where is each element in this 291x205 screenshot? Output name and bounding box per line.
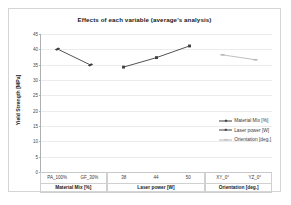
category-group-label: Orientation [deg.] bbox=[206, 183, 271, 193]
plot-area: 051015202530354045 bbox=[40, 34, 272, 172]
series-orientation-deg bbox=[220, 55, 257, 60]
category-tick-label: 44 bbox=[140, 175, 172, 180]
chart-figure: Effects of each variable (average's anal… bbox=[8, 8, 281, 192]
series-line bbox=[223, 55, 256, 60]
series-layer bbox=[41, 34, 272, 172]
y-axis-tick-label: 5 bbox=[35, 154, 38, 159]
chart-title: Effects of each variable (average's anal… bbox=[9, 16, 280, 23]
legend-entry[interactable]: Laser power [W] bbox=[219, 128, 269, 133]
y-axis-tick-label: 0 bbox=[35, 170, 38, 175]
category-group: PA_100%GF_30%Material Mix [%] bbox=[40, 172, 107, 193]
category-tick-label: 50 bbox=[172, 175, 204, 180]
legend-swatch-icon bbox=[219, 118, 232, 123]
data-point-marker bbox=[188, 45, 191, 48]
legend-entry[interactable]: Orientation [deg.] bbox=[219, 137, 271, 142]
data-point-marker bbox=[155, 56, 158, 59]
y-axis-tick-label: 15 bbox=[33, 124, 38, 129]
series-material-mix bbox=[55, 47, 93, 66]
series-line bbox=[58, 49, 91, 65]
category-tick-row: PA_100%GF_30% bbox=[41, 172, 106, 183]
y-axis-tick-label: 30 bbox=[33, 78, 38, 83]
category-tick-row: 384450 bbox=[108, 172, 205, 183]
category-group-label: Material Mix [%] bbox=[41, 183, 106, 193]
category-tick-label: 38 bbox=[108, 175, 140, 180]
y-axis-tick-label: 10 bbox=[33, 139, 38, 144]
legend-entry[interactable]: Material Mix [%] bbox=[219, 118, 268, 123]
legend-swatch-icon bbox=[219, 137, 232, 142]
y-axis-title: Yield Strength [MPa] bbox=[15, 75, 21, 126]
category-group-label: Laser power [W] bbox=[108, 183, 205, 193]
category-axis: PA_100%GF_30%Material Mix [%]384450Laser… bbox=[40, 172, 272, 193]
legend-label: Laser power [W] bbox=[234, 128, 269, 133]
y-axis-tick-label: 35 bbox=[33, 62, 38, 67]
category-group: XY_0°YZ_0°Orientation [deg.] bbox=[205, 172, 272, 193]
y-axis-tick-label: 20 bbox=[33, 108, 38, 113]
data-point-marker bbox=[122, 66, 125, 69]
category-tick-row: XY_0°YZ_0° bbox=[206, 172, 271, 183]
category-group: 384450Laser power [W] bbox=[107, 172, 206, 193]
y-axis-tick-label: 25 bbox=[33, 93, 38, 98]
y-axis-tick-label: 40 bbox=[33, 47, 38, 52]
category-tick-label: PA_100% bbox=[41, 175, 73, 180]
category-tick-label: XY_0° bbox=[206, 175, 238, 180]
legend-swatch-icon bbox=[219, 128, 232, 133]
legend-label: Material Mix [%] bbox=[234, 118, 268, 123]
y-axis-tick-label: 45 bbox=[33, 32, 38, 37]
category-tick-label: YZ_0° bbox=[239, 175, 271, 180]
series-laser-power-w bbox=[122, 45, 191, 69]
category-tick-label: GF_30% bbox=[73, 175, 105, 180]
chart-legend: Material Mix [%]Laser power [W]Orientati… bbox=[219, 118, 271, 142]
legend-label: Orientation [deg.] bbox=[234, 137, 271, 142]
